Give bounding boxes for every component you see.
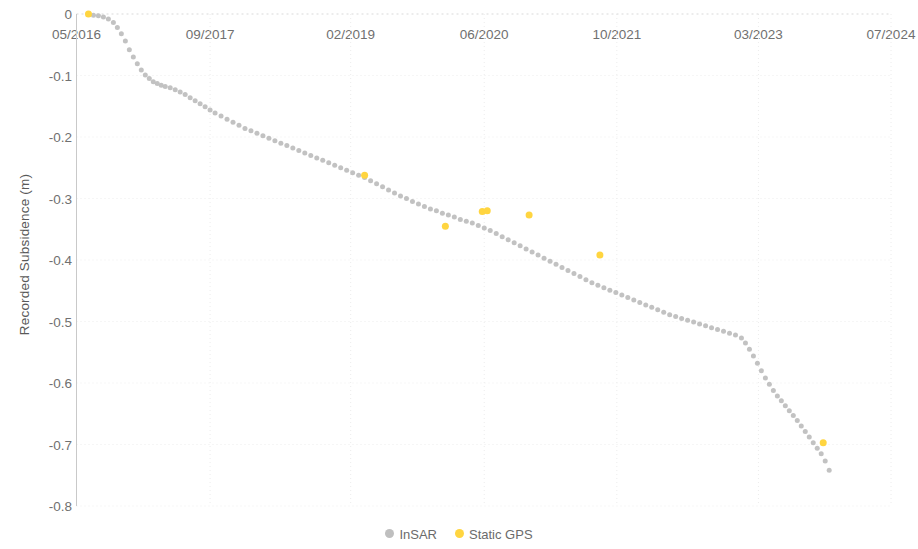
data-point: [727, 331, 732, 336]
data-point: [254, 131, 259, 136]
data-point: [344, 168, 349, 173]
series-static-gps: [85, 11, 827, 447]
data-point: [123, 39, 128, 44]
data-point: [380, 184, 385, 189]
data-point: [203, 104, 208, 109]
data-point: [248, 128, 253, 133]
data-point: [476, 223, 481, 228]
data-point: [434, 208, 439, 213]
data-point: [542, 256, 547, 261]
data-point: [213, 111, 218, 116]
data-point: [101, 15, 106, 20]
data-point: [350, 170, 355, 175]
data-point: [428, 206, 433, 211]
data-point: [530, 250, 535, 255]
data-point: [596, 252, 603, 259]
data-point: [314, 155, 319, 160]
data-point: [163, 84, 168, 89]
data-point: [398, 194, 403, 199]
data-point: [595, 283, 600, 288]
data-point: [613, 290, 618, 295]
data-point: [795, 418, 800, 423]
data-point: [589, 280, 594, 285]
data-point: [392, 190, 397, 195]
data-point: [643, 302, 648, 307]
data-point: [410, 199, 415, 204]
data-point: [667, 312, 672, 317]
data-point: [811, 440, 816, 445]
data-point: [296, 148, 301, 153]
data-point: [560, 265, 565, 270]
data-point: [691, 320, 696, 325]
data-point: [751, 353, 756, 358]
data-point: [548, 259, 553, 264]
data-point: [106, 16, 111, 21]
legend-label: InSAR: [399, 527, 437, 542]
data-point: [649, 305, 654, 310]
data-point: [219, 114, 224, 119]
data-point: [779, 398, 784, 403]
data-point: [147, 76, 152, 81]
data-point: [607, 288, 612, 293]
chart-legend: InSARStatic GPS: [0, 526, 918, 542]
data-point: [799, 424, 804, 429]
data-point: [440, 211, 445, 216]
data-point: [231, 120, 236, 125]
data-point: [237, 123, 242, 128]
data-point: [119, 31, 124, 36]
data-point: [458, 217, 463, 222]
data-point: [500, 234, 505, 239]
data-point: [661, 310, 666, 315]
data-point: [619, 293, 624, 298]
data-point: [791, 413, 796, 418]
data-point: [823, 459, 828, 464]
data-point: [260, 133, 265, 138]
data-point: [733, 333, 738, 338]
data-point: [767, 382, 772, 387]
data-point: [188, 95, 193, 100]
data-point: [290, 146, 295, 151]
data-point: [111, 20, 116, 25]
data-point: [452, 214, 457, 219]
data-point: [763, 376, 768, 381]
data-point: [115, 25, 120, 30]
series-insar: [86, 12, 832, 473]
data-point: [673, 314, 678, 319]
data-point: [484, 207, 491, 214]
data-point: [127, 47, 132, 52]
data-point: [524, 246, 529, 251]
data-point: [703, 323, 708, 328]
data-point: [759, 368, 764, 373]
data-point: [320, 158, 325, 163]
data-point: [278, 141, 283, 146]
data-point: [709, 325, 714, 330]
data-point: [577, 274, 582, 279]
legend-marker-icon: [455, 529, 464, 538]
data-point: [143, 72, 148, 77]
legend-marker-icon: [385, 529, 394, 538]
data-point: [361, 172, 368, 179]
data-point: [326, 160, 331, 165]
data-point: [512, 240, 517, 245]
data-point: [442, 223, 449, 230]
legend-item[interactable]: InSAR: [385, 526, 437, 542]
data-point: [583, 277, 588, 282]
data-point: [771, 388, 776, 393]
data-point: [526, 212, 533, 219]
data-point: [721, 329, 726, 334]
data-point: [715, 327, 720, 332]
data-point: [96, 13, 101, 18]
data-point: [685, 318, 690, 323]
data-point: [225, 117, 230, 122]
data-point: [308, 153, 313, 158]
data-point: [135, 61, 140, 66]
data-point: [488, 228, 493, 233]
data-point: [404, 196, 409, 201]
data-point: [807, 435, 812, 440]
legend-item[interactable]: Static GPS: [455, 526, 533, 542]
data-point: [494, 231, 499, 236]
data-point: [565, 268, 570, 273]
data-point: [131, 55, 136, 60]
data-point: [679, 316, 684, 321]
data-point: [755, 361, 760, 366]
